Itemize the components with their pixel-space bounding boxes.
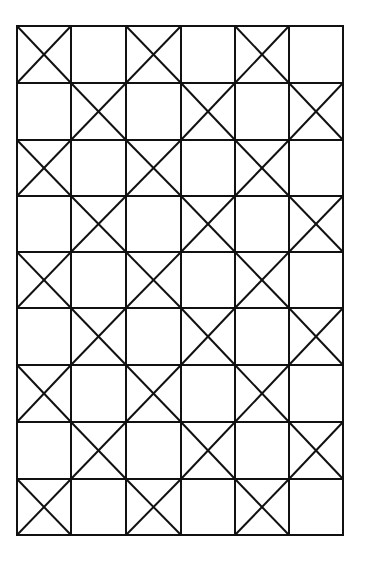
grid-cell <box>71 252 126 308</box>
x-mark-icon <box>235 140 289 196</box>
x-mark-icon <box>235 26 289 83</box>
x-mark-icon <box>235 252 289 308</box>
grid-cells <box>17 26 343 535</box>
x-mark-icon <box>71 83 126 140</box>
x-mark-icon <box>181 83 235 140</box>
x-mark-icon <box>235 365 289 422</box>
x-mark-icon <box>126 479 181 535</box>
x-mark-icon <box>17 140 71 196</box>
grid-cell <box>235 196 289 252</box>
grid-cell <box>181 479 235 535</box>
grid-cell <box>289 252 343 308</box>
grid-cell <box>71 365 126 422</box>
grid-cell <box>126 308 181 365</box>
x-mark-icon <box>17 365 71 422</box>
x-pattern-grid <box>0 0 366 561</box>
x-mark-icon <box>71 308 126 365</box>
grid-cell <box>71 140 126 196</box>
grid-cell <box>71 479 126 535</box>
grid-cell <box>181 26 235 83</box>
grid-cell <box>235 83 289 140</box>
x-mark-icon <box>71 196 126 252</box>
x-mark-icon <box>181 422 235 479</box>
grid-cell <box>181 252 235 308</box>
grid-cell <box>126 196 181 252</box>
grid-cell <box>17 422 71 479</box>
grid-cell <box>289 140 343 196</box>
grid-cell <box>17 196 71 252</box>
x-mark-icon <box>289 196 343 252</box>
x-mark-icon <box>126 140 181 196</box>
x-mark-icon <box>17 252 71 308</box>
x-mark-icon <box>126 252 181 308</box>
x-mark-icon <box>71 422 126 479</box>
x-mark-icon <box>181 196 235 252</box>
grid-cell <box>289 26 343 83</box>
grid-cell <box>126 422 181 479</box>
grid-cell <box>289 479 343 535</box>
x-mark-icon <box>126 365 181 422</box>
grid-cell <box>126 83 181 140</box>
grid-cell <box>17 308 71 365</box>
grid-cell <box>17 83 71 140</box>
x-mark-icon <box>17 26 71 83</box>
x-mark-icon <box>289 308 343 365</box>
grid-cell <box>235 422 289 479</box>
grid-cell <box>235 308 289 365</box>
x-mark-icon <box>235 479 289 535</box>
grid-cell <box>71 26 126 83</box>
x-mark-icon <box>17 479 71 535</box>
x-mark-icon <box>126 26 181 83</box>
x-mark-icon <box>289 83 343 140</box>
grid-cell <box>181 140 235 196</box>
grid-cell <box>181 365 235 422</box>
x-mark-icon <box>289 422 343 479</box>
x-mark-icon <box>181 308 235 365</box>
grid-cell <box>289 365 343 422</box>
